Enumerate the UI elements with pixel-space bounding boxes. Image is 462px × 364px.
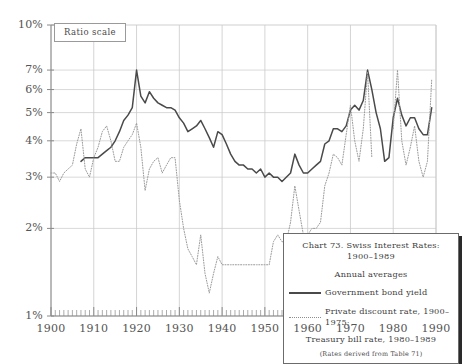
series-line-government-bond-yield	[81, 70, 432, 181]
x-axis-tick-label: 1930	[157, 322, 201, 335]
x-axis-tick-label: 1960	[286, 322, 330, 335]
legend-entry-bond: Government bond yield	[289, 287, 453, 298]
legend-label-discount-line2: Treasury bill rate, 1980–1989	[289, 334, 453, 345]
x-axis-tick-label: 1950	[243, 322, 287, 335]
y-axis-tick-label: 6%	[13, 83, 43, 96]
x-axis-tick-label: 1980	[371, 322, 415, 335]
y-axis-tick-label: 4%	[13, 134, 43, 147]
legend-label-bond: Government bond yield	[325, 287, 427, 298]
y-axis-tick-label: 2%	[13, 221, 43, 234]
legend-swatch-solid-icon	[289, 288, 321, 298]
y-axis-tick-label: 3%	[13, 170, 43, 183]
y-axis-tick-label: 5%	[13, 106, 43, 119]
legend-title-line2: 1900–1989	[289, 251, 453, 262]
y-axis-tick-label: 1%	[13, 309, 43, 322]
chart-legend: Chart 73. Swiss Interest Rates: 1900–198…	[283, 233, 459, 364]
x-axis-tick-label: 1990	[414, 322, 458, 335]
x-axis-tick-label: 1900	[29, 322, 73, 335]
y-axis-tick-label: 7%	[13, 63, 43, 76]
x-axis-tick-label: 1910	[72, 322, 116, 335]
ratio-scale-label: Ratio scale	[64, 27, 116, 37]
legend-title: Chart 73. Swiss Interest Rates: 1900–198…	[289, 240, 453, 262]
x-axis-tick-label: 1970	[328, 322, 372, 335]
legend-title-line1: Chart 73. Swiss Interest Rates:	[289, 240, 453, 251]
x-axis-tick-label: 1920	[115, 322, 159, 335]
series-line-discount-rate	[393, 70, 432, 177]
legend-swatch-dotted-icon	[289, 312, 321, 322]
x-axis-tick-label: 1940	[200, 322, 244, 335]
y-axis-tick-label: 10%	[13, 18, 43, 31]
legend-subtitle: Annual averages	[289, 269, 453, 279]
legend-note: (Rates derived from Table 71)	[289, 350, 453, 358]
ratio-scale-badge: Ratio scale	[54, 23, 126, 42]
